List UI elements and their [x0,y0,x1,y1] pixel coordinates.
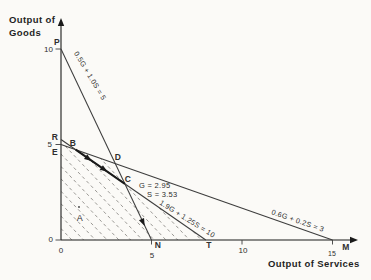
lp-diagram-figure: Output of Goods Output of Services 10500… [0,0,371,280]
x-tick-label: 5 [150,251,155,260]
point-label-P: P [54,37,60,47]
point-label-N: N [155,240,161,250]
region-label-A: A [77,213,83,223]
y-tick-label: 10 [44,45,53,54]
lp-diagram-canvas: 1050051015PREBDCANTMG = 2.95S = 3.530.5G… [0,0,371,280]
point-label-R: R [52,132,58,142]
point-label-C: C [125,174,131,184]
iso-profit-dashed-line [61,142,154,240]
iso-profit-dashed-line [61,166,131,240]
point-dot-A [78,206,80,208]
iso-profit-dashed-line [61,191,107,240]
x-tick-label: 10 [239,246,248,255]
x-axis-arrow-icon [350,237,358,243]
y-axis-arrow-icon [58,18,64,26]
y-tick-label: 0 [49,235,54,244]
optimum-G-label: G = 2.95 [139,181,170,190]
line-label-PN: 0.5G + 1.0S = 5 [72,50,108,102]
direction-arrow-icon [139,218,147,227]
iso-profit-dashed-line [61,179,119,240]
point-label-E: E [52,147,58,157]
iso-profit-dashed-line [61,229,72,240]
x-tick-label: 0 [59,246,64,255]
point-label-D: D [115,152,121,162]
x-tick-label: 15 [328,250,336,257]
point-label-M: M [342,242,349,252]
point-label-B: B [70,138,76,148]
line-label-RT: 1.9G + 1.25S = 10 [158,198,217,239]
point-label-T: T [206,240,212,250]
